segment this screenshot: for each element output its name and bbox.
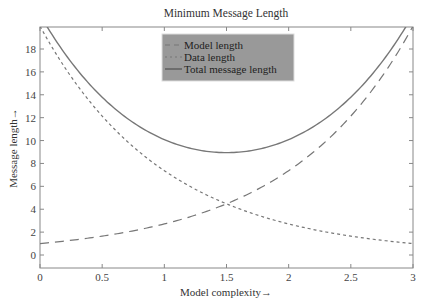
y-tick-label: 16 — [25, 66, 37, 78]
x-tick-label: 1 — [162, 271, 168, 283]
legend-item-data: Data length — [184, 51, 236, 63]
y-axis-label: Message length→ — [7, 108, 19, 188]
x-tick-label: 0.5 — [95, 271, 109, 283]
legend-item-model: Model length — [184, 39, 243, 51]
y-tick-label: 10 — [25, 135, 37, 147]
legend: Model length Data length Total message l… — [162, 34, 294, 81]
x-tick-label: 0 — [37, 271, 43, 283]
y-tick-label: 18 — [25, 43, 37, 55]
x-axis-label: Model complexity→ — [180, 286, 272, 298]
y-tick-label: 8 — [31, 157, 37, 169]
y-tick-label: 6 — [31, 180, 37, 192]
x-tick-label: 2.5 — [344, 271, 358, 283]
y-tick-label: 0 — [31, 249, 37, 261]
y-tick-label: 2 — [31, 226, 37, 238]
x-tick-label: 2 — [286, 271, 292, 283]
x-tick-label: 3 — [410, 271, 416, 283]
y-tick-label: 14 — [25, 89, 37, 101]
y-tick-label: 4 — [31, 203, 37, 215]
chart-title: Minimum Message Length — [164, 7, 289, 20]
legend-item-total: Total message length — [184, 63, 277, 75]
y-tick-label: 12 — [25, 112, 36, 124]
chart-root: Minimum Message Length 00.511.522.53 024… — [0, 0, 428, 307]
x-tick-label: 1.5 — [220, 271, 234, 283]
